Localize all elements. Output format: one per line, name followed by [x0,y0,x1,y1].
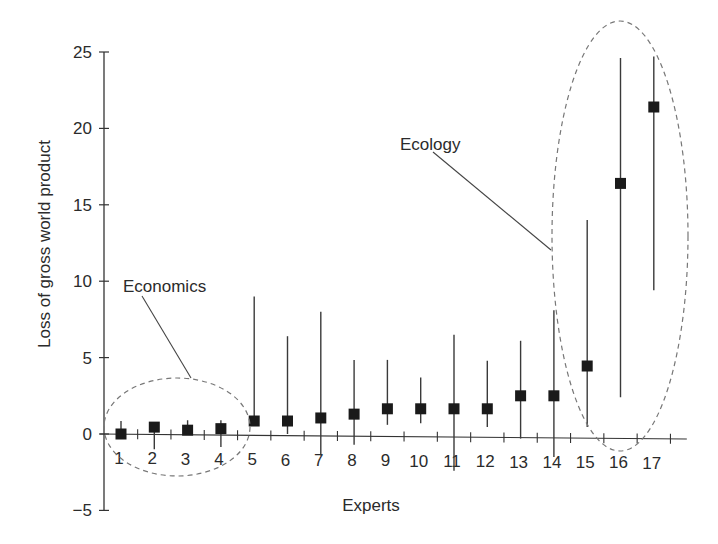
x-tick-label: 17 [642,454,661,473]
ecology-label: Ecology [400,135,461,154]
x-tick-label: 15 [576,453,595,472]
x-axis-title: Experts [342,496,400,515]
x-tick-label: 11 [443,452,461,471]
error-bars [116,57,660,471]
x-tick-label: 1 [114,449,123,468]
x-tick-label: 4 [214,450,223,469]
y-tick-label: 20 [73,119,92,138]
x-tick-label: 9 [381,451,390,470]
y-tick-label: 10 [73,272,92,291]
economics-label: Economics [123,277,206,296]
y-axis-title: Loss of gross world product [35,140,54,348]
data-point-square [116,429,127,440]
data-point-square [249,416,260,427]
x-tick-label: 8 [347,451,356,470]
y-tick-label: 5 [83,349,92,368]
data-point-square [182,425,193,436]
data-point-square [382,403,393,414]
y-tick-label: −5 [73,501,92,520]
data-point-square [582,361,593,372]
annotations [104,21,688,476]
data-point-square [315,412,326,423]
data-point-square [615,178,626,189]
x-tick-label: 5 [247,450,256,469]
x-tick-label: 12 [476,452,495,471]
error-bar-chart: −505101520251234567891011121314151617 Ex… [0,0,718,544]
ecology-leader-line [433,152,551,250]
x-tick-label: 2 [148,449,157,468]
y-tick-label: 25 [73,43,92,62]
economics-leader-line [142,296,191,378]
y-tick-label: 15 [73,196,92,215]
x-tick-label: 6 [281,451,290,470]
data-point-square [149,422,160,433]
data-point-square [349,409,360,420]
economics-ellipse [104,378,250,476]
data-point-square [282,416,293,427]
y-tick-label: 0 [83,425,92,444]
x-tick-label: 14 [542,453,561,472]
data-point-square [449,403,460,414]
x-tick-label: 13 [509,453,528,472]
x-tick-label: 16 [609,453,628,472]
data-point-square [548,390,559,401]
data-point-square [415,403,426,414]
x-tick-label: 3 [181,450,190,469]
data-point-square [215,423,226,434]
data-point-square [515,390,526,401]
data-point-square [648,102,659,113]
x-tick-label: 10 [409,452,428,471]
data-point-square [482,403,493,414]
x-tick-label: 7 [314,451,323,470]
